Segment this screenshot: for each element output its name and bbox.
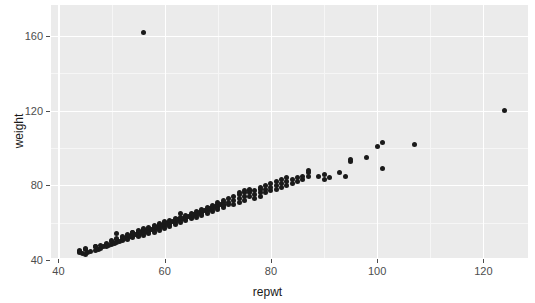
y-tick-mark (46, 185, 50, 186)
gridline-y-minor (51, 73, 528, 74)
y-tick-mark (46, 111, 50, 112)
data-point (88, 249, 93, 254)
x-tick-label: 40 (52, 265, 64, 277)
data-point (114, 231, 119, 236)
gridline-x-major (377, 5, 378, 258)
data-point (237, 190, 242, 195)
y-tick-label: 40 (31, 254, 43, 266)
data-point (322, 177, 327, 182)
gridline-x-minor (218, 5, 219, 258)
y-tick-mark (46, 260, 50, 261)
gridline-y-major (51, 111, 528, 112)
y-tick-label: 120 (25, 105, 43, 117)
gridline-y-minor (51, 223, 528, 224)
data-point (258, 185, 263, 190)
data-point (221, 198, 226, 203)
x-tick-label: 100 (368, 265, 386, 277)
data-point (226, 196, 231, 201)
data-point (327, 175, 332, 180)
gridline-x-major (271, 5, 272, 258)
data-point (322, 172, 327, 177)
data-point (247, 187, 252, 192)
gridline-x-minor (324, 5, 325, 258)
x-tick-label: 120 (474, 265, 492, 277)
scatter-plot-figure: 406080100120 4080120160 repwt weight (0, 0, 535, 303)
data-point (337, 170, 342, 175)
x-tick-mark (483, 259, 484, 263)
data-point (306, 168, 311, 173)
gridline-x-minor (430, 5, 431, 258)
data-point (380, 140, 385, 145)
x-tick-label: 60 (159, 265, 171, 277)
data-point (380, 166, 385, 171)
gridline-x-major (483, 5, 484, 258)
x-tick-mark (377, 259, 378, 263)
data-point (412, 142, 417, 147)
x-axis-title: repwt (0, 285, 535, 299)
gridline-x-minor (112, 5, 113, 258)
data-point (375, 144, 380, 149)
data-point (141, 30, 146, 35)
data-point (300, 174, 305, 179)
y-tick-mark (46, 36, 50, 37)
x-tick-mark (58, 259, 59, 263)
gridline-x-major (58, 5, 59, 258)
x-tick-label: 80 (265, 265, 277, 277)
data-point (274, 179, 279, 184)
data-point (502, 108, 507, 113)
x-tick-mark (165, 259, 166, 263)
gridline-y-major (51, 185, 528, 186)
plot-panel (51, 5, 528, 258)
data-point (343, 174, 348, 179)
data-point (316, 174, 321, 179)
gridline-y-major (51, 36, 528, 37)
data-point (263, 183, 268, 188)
y-axis-title: weight (12, 114, 26, 149)
x-tick-mark (271, 259, 272, 263)
y-tick-label: 160 (25, 30, 43, 42)
y-tick-label: 80 (31, 179, 43, 191)
gridline-y-minor (51, 148, 528, 149)
data-point (348, 157, 353, 162)
data-point (290, 177, 295, 182)
data-point (364, 155, 369, 160)
